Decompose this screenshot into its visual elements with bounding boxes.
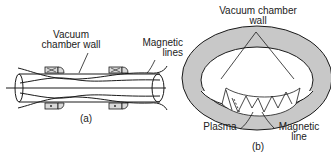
label-line: chamber wall (38, 40, 104, 50)
caption-a: (a) (76, 114, 96, 124)
label-vacuum-wall-b: Vacuum chamber wall (215, 6, 301, 26)
magnetic-line (18, 97, 167, 110)
label-magnetic-line-b: Magnetic line (276, 122, 322, 142)
label-magnetic-lines-a: Magnetic lines (135, 38, 183, 58)
caption-b: (b) (248, 142, 268, 152)
label-plasma: Plasma (201, 122, 239, 132)
label-vacuum-wall-a: Vacuum chamber wall (38, 30, 104, 50)
label-line: wall (215, 16, 301, 26)
label-line: lines (135, 48, 183, 58)
magnetic-line (20, 93, 160, 98)
linear-device (6, 66, 167, 110)
magnetic-line (18, 66, 167, 79)
torus (182, 26, 331, 130)
label-line: line (276, 132, 322, 142)
magnetic-line (20, 78, 160, 83)
